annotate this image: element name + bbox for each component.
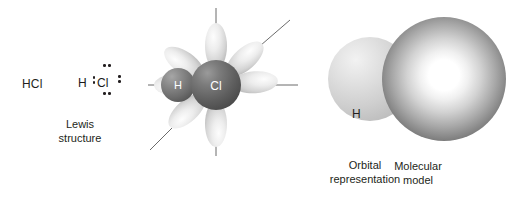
lewis-hydrogen-symbol: H	[78, 76, 87, 90]
model-chlorine-sphere: Cl	[382, 17, 506, 141]
molecular-model-panel: H Cl Molecular model	[320, 0, 517, 203]
lewis-lone-pair-top-dots	[103, 64, 112, 67]
molecular-model-caption: Molecular model	[363, 159, 473, 187]
orbital-hydrogen-label: H	[174, 79, 182, 91]
model-chlorine-label: Cl	[433, 72, 444, 86]
lewis-bonding-pair-dots	[93, 76, 96, 85]
molecular-formula-label: HCl	[22, 78, 43, 91]
lewis-lone-pair-bottom-dots	[103, 92, 112, 95]
orbital-diagram-svg: H Cl	[148, 0, 320, 160]
lewis-structure-panel: HCl H Cl Lewis structure	[0, 0, 160, 203]
model-hydrogen-label: H	[352, 107, 361, 121]
lewis-dot-diagram: H Cl	[78, 62, 140, 104]
orbital-diagram: H Cl	[148, 0, 320, 160]
hcl-figure: HCl H Cl Lewis structure	[0, 0, 517, 203]
lewis-chlorine-symbol: Cl	[97, 76, 108, 90]
lewis-lone-pair-right-dots	[118, 75, 121, 84]
lewis-structure-caption: Lewis structure	[42, 117, 118, 145]
orbital-chlorine-label: Cl	[210, 79, 221, 93]
orbital-representation-panel: H Cl Orbital representation	[148, 0, 320, 203]
